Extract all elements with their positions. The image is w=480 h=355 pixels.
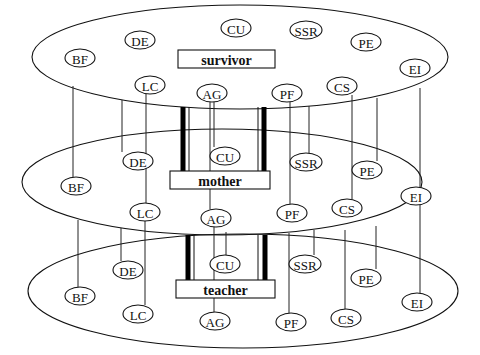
layer-label: mother (198, 174, 242, 189)
node-label: PF (285, 207, 299, 222)
layer-label: teacher (203, 283, 247, 298)
node-label: SSR (294, 24, 317, 39)
node-pf: PF (277, 204, 307, 222)
node-de: DE (113, 261, 143, 279)
node-label: PE (358, 272, 373, 287)
layer-box-survivor: survivor (178, 50, 275, 68)
node-pf: PF (276, 313, 306, 331)
node-label: SSR (293, 258, 316, 273)
node-label: CS (338, 312, 354, 327)
node-pf: PF (272, 84, 302, 102)
node-label: PE (358, 36, 373, 51)
node-pe: PE (352, 161, 382, 179)
node-lc: LC (130, 203, 160, 221)
node-label: DE (129, 155, 146, 170)
node-label: PF (284, 316, 298, 331)
node-ag: AG (201, 209, 231, 227)
node-label: BF (72, 290, 88, 305)
node-lc: LC (135, 76, 165, 94)
node-cs: CS (332, 199, 362, 217)
node-label: CS (334, 80, 350, 95)
node-ssr: SSR (289, 255, 321, 273)
node-label: EI (410, 190, 422, 205)
node-label: CS (339, 202, 355, 217)
node-cs: CS (331, 309, 361, 327)
layer-label: survivor (201, 53, 252, 68)
node-ssr: SSR (290, 21, 322, 39)
node-label: LC (142, 79, 159, 94)
node-cu: CU (210, 147, 240, 165)
node-label: DE (119, 264, 136, 279)
node-label: SSR (294, 156, 317, 171)
node-de: DE (125, 31, 155, 49)
node-de: DE (123, 152, 153, 170)
node-ei: EI (401, 187, 431, 205)
node-lc: LC (123, 305, 153, 323)
node-label: EI (409, 62, 421, 77)
node-label: DE (131, 34, 148, 49)
node-cu: CU (210, 255, 240, 273)
node-label: LC (137, 206, 154, 221)
node-label: CU (216, 150, 235, 165)
node-label: CU (227, 22, 246, 37)
node-bf: BF (65, 49, 95, 67)
node-label: LC (130, 308, 147, 323)
node-label: AG (207, 212, 226, 227)
layer-box-teacher: teacher (176, 280, 275, 298)
node-label: AG (203, 87, 222, 102)
node-cs: CS (327, 77, 357, 95)
node-pe: PE (351, 33, 381, 51)
node-label: BF (72, 52, 88, 67)
node-pe: PE (351, 269, 381, 287)
node-ag: AG (197, 84, 227, 102)
node-bf: BF (65, 287, 95, 305)
node-label: EI (411, 296, 423, 311)
node-ssr: SSR (290, 153, 322, 171)
node-label: PE (359, 164, 374, 179)
central-pillars (183, 107, 265, 280)
node-label: BF (68, 180, 84, 195)
node-ei: EI (400, 59, 430, 77)
node-bf: BF (61, 177, 91, 195)
node-ag: AG (200, 312, 230, 330)
three-layer-diagram: survivormotherteacher BFDECUSSRPEEILCAGP… (0, 0, 480, 355)
node-ei: EI (402, 293, 432, 311)
layer-box-mother: mother (170, 171, 270, 189)
node-label: CU (216, 258, 235, 273)
node-label: PF (280, 87, 294, 102)
node-cu: CU (221, 19, 251, 37)
node-label: AG (206, 315, 225, 330)
